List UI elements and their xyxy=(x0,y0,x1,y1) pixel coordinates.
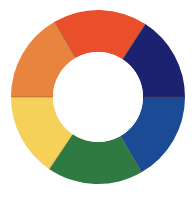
color-wheel-figure xyxy=(0,0,194,199)
color-wheel-svg xyxy=(0,0,194,199)
wheel-inner-hole xyxy=(53,52,143,142)
